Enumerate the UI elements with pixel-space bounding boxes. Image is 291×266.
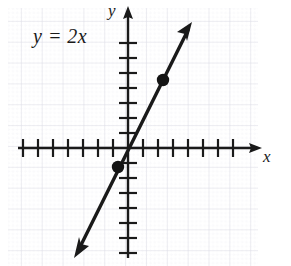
x-axis-label: x (263, 148, 271, 165)
y-axis-label: y (108, 2, 116, 19)
data-point (157, 74, 169, 86)
equation-label: y = 2x (33, 26, 87, 46)
data-point (112, 161, 124, 173)
graph-figure: y = 2x y x (0, 0, 291, 266)
